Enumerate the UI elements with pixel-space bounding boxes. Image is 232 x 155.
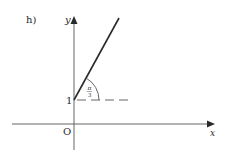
angle-label-numerator: π: [87, 84, 93, 91]
x-axis-label: x: [210, 128, 215, 138]
diagram-canvas: h) y x O 1 π 3: [0, 0, 232, 155]
x-axis-arrowhead-icon: [207, 121, 215, 128]
y-axis-arrowhead-icon: [71, 16, 78, 24]
y-axis-label: y: [64, 14, 71, 25]
part-label: h): [26, 14, 36, 25]
ray-line: [74, 18, 119, 100]
origin-label: O: [63, 126, 71, 137]
y-intercept-label: 1: [66, 95, 72, 106]
angle-label-denominator: 3: [88, 92, 92, 98]
